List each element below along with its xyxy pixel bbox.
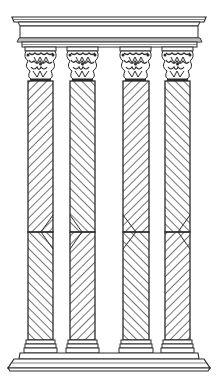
column-1 [24,47,57,353]
column-4 [161,47,194,353]
columns-drawing [0,0,219,382]
entablature [12,17,206,47]
capital-icon [120,47,151,81]
capital-icon [67,47,98,81]
column-3 [119,47,153,353]
capital-icon [162,47,193,81]
column-2 [66,47,99,353]
capital-icon [25,47,56,81]
stylobate-base [8,353,210,371]
